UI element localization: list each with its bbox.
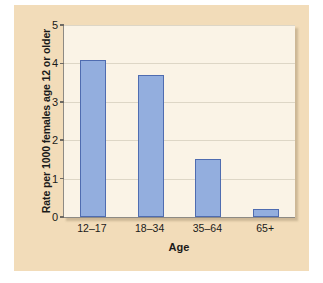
bar — [195, 159, 221, 217]
x-axis-tick-label: 65+ — [256, 222, 274, 234]
figure-card: Rate per 1000 females age 12 or older 01… — [14, 5, 309, 271]
x-axis-tick-label: 35–64 — [193, 222, 222, 234]
y-axis-tick-label: 4 — [52, 58, 58, 69]
y-axis-tick-mark — [60, 178, 64, 180]
y-axis-tick-mark — [60, 139, 64, 141]
y-axis-tick-label: 1 — [52, 173, 58, 184]
y-axis-tick-mark — [60, 101, 64, 103]
y-axis-tick-label: 3 — [52, 96, 58, 107]
bar — [253, 209, 279, 217]
bar — [138, 75, 164, 217]
y-axis-tick-mark — [60, 63, 64, 65]
y-axis-tick-label: 5 — [52, 20, 58, 31]
y-axis-tick-mark — [60, 216, 64, 218]
y-axis-tick-mark — [60, 24, 64, 26]
plot-area: 012345 — [63, 25, 295, 218]
y-axis-tick-label: 0 — [52, 212, 58, 223]
bar — [80, 60, 106, 217]
y-axis-title: Rate per 1000 females age 12 or older — [40, 26, 52, 216]
x-axis-tick-label: 12–17 — [77, 222, 106, 234]
x-axis-title: Age — [63, 241, 295, 253]
y-axis-tick-label: 2 — [52, 135, 58, 146]
gridline — [64, 25, 295, 26]
x-axis-tick-label: 18–34 — [135, 222, 164, 234]
